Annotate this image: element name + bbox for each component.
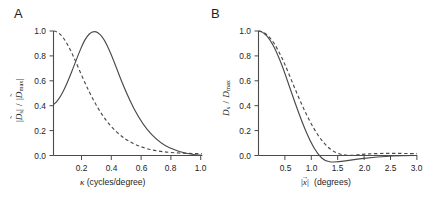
panel-b-xtick-0.5: 0.5 xyxy=(273,163,298,173)
panel-a-xtick-0.6: 0.6 xyxy=(129,163,154,173)
panel-a-ytick-0.6: 0.6 xyxy=(24,76,46,86)
panel-a-yaxis-title: |˜Ds| / |˜Dmax| xyxy=(14,79,24,122)
panel-b-ytick-0.0: 0.0 xyxy=(229,151,251,161)
panel-a: A xyxy=(0,0,214,197)
panel-a-ytick-0.8: 0.8 xyxy=(24,51,46,61)
panel-a-ytick-0.4: 0.4 xyxy=(24,101,46,111)
panel-a-ytick-0.0: 0.0 xyxy=(24,151,46,161)
panel-a-xtick-0.4: 0.4 xyxy=(99,163,124,173)
panel-a-y-ticks xyxy=(50,31,54,156)
panel-b-xaxis-units: (degrees) xyxy=(311,177,351,187)
panel-b-ytick-0.4: 0.4 xyxy=(229,101,251,111)
panel-a-curve-dashed xyxy=(54,31,202,154)
panel-a-curve-solid xyxy=(54,32,202,156)
figure-root: A xyxy=(0,0,429,197)
panel-b-ytick-0.8: 0.8 xyxy=(229,51,251,61)
panel-b-ytick-0.6: 0.6 xyxy=(229,76,251,86)
panel-a-xaxis-title: κ (cycles/degree) xyxy=(80,177,145,187)
panel-b-ytick-0.2: 0.2 xyxy=(229,126,251,136)
panel-b-y-ticks xyxy=(255,31,259,156)
panel-b-yaxis-title: Ds / Dmax xyxy=(221,80,231,116)
panel-b-xtick-2.5: 2.5 xyxy=(378,163,403,173)
panel-a-ytick-0.2: 0.2 xyxy=(24,126,46,136)
panel-a-xtick-0.2: 0.2 xyxy=(69,163,94,173)
panel-b-curve-solid xyxy=(259,31,417,162)
panel-a-x-ticks xyxy=(82,156,201,161)
panel-b-xaxis-title: |→x| (degrees) xyxy=(301,177,351,187)
panel-b-xtick-3.0: 3.0 xyxy=(404,163,429,173)
panel-b-ytick-1.0: 1.0 xyxy=(229,26,251,36)
panel-a-xaxis-units: (cycles/degree) xyxy=(87,177,146,187)
panel-b-curve-dashed xyxy=(259,31,417,155)
panel-b-xtick-2.0: 2.0 xyxy=(352,163,377,173)
panel-b-xtick-1.5: 1.5 xyxy=(325,163,350,173)
panel-b: B xyxy=(205,0,429,197)
panel-a-xtick-0.8: 0.8 xyxy=(158,163,183,173)
panel-a-ytick-1.0: 1.0 xyxy=(24,26,46,36)
kappa-symbol: κ xyxy=(80,177,84,187)
